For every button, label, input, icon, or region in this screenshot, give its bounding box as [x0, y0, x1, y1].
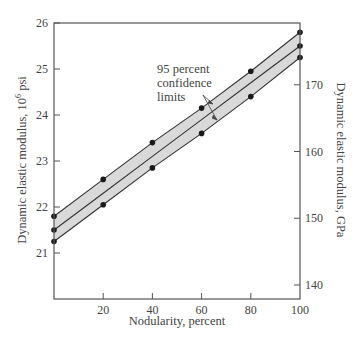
- y-axis-right-label: Dynamic elastic modulus, GPa: [334, 83, 348, 238]
- y-axis-right-ticks: 140150160170: [294, 78, 323, 292]
- chart: 20406080100 212223242526 140150160170 No…: [0, 0, 353, 347]
- y-right-tick-label: 150: [305, 211, 323, 225]
- y-right-tick-label: 160: [305, 145, 323, 159]
- data-point-marker: [100, 177, 106, 183]
- svg-text:confidence: confidence: [157, 76, 212, 90]
- y-tick-label: 23: [36, 154, 48, 168]
- x-tick-label: 20: [97, 303, 109, 317]
- svg-text:95 percent: 95 percent: [157, 62, 210, 76]
- y-tick-label: 26: [36, 16, 48, 30]
- svg-text:limits: limits: [157, 90, 186, 104]
- y-tick-label: 21: [36, 246, 48, 260]
- x-axis-label: Nodularity, percent: [129, 314, 226, 328]
- data-point-marker: [150, 140, 156, 146]
- y-tick-label: 22: [36, 200, 48, 214]
- data-point-marker: [248, 69, 254, 75]
- data-point-marker: [199, 131, 205, 137]
- data-point-marker: [150, 165, 156, 171]
- y-right-tick-label: 140: [305, 278, 323, 292]
- y-axis-left-label: Dynamic elastic modulus, 106 psi: [14, 76, 29, 244]
- x-tick-label: 80: [245, 303, 257, 317]
- data-point-marker: [199, 105, 205, 111]
- y-tick-label: 25: [36, 62, 48, 76]
- y-tick-label: 24: [36, 108, 48, 122]
- y-right-tick-label: 170: [305, 78, 323, 92]
- x-tick-label: 100: [291, 303, 309, 317]
- data-point-marker: [100, 202, 106, 208]
- data-point-marker: [248, 94, 254, 100]
